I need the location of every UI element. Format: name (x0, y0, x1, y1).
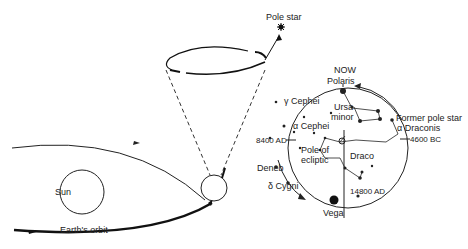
draco-lines (320, 120, 398, 178)
earths-orbit-label: Earth's orbit (60, 225, 108, 235)
precession-ellipse-top (166, 47, 248, 70)
former-pole-star-label: Former pole star (396, 113, 462, 123)
gamma-cephei-label: γ Cephei (284, 96, 320, 106)
orbit-lower-arc (14, 203, 212, 232)
deneb-label: Deneb (257, 163, 284, 173)
alpha-cephei-label: α Cephei (293, 121, 329, 131)
precession-ellipse-arrow (170, 70, 180, 72)
pole-star-label: Pole star (266, 12, 302, 22)
pole-of-ecliptic-label-1: Pole of (301, 145, 329, 155)
cone-line-right (221, 70, 265, 175)
cone-line-left (166, 70, 210, 175)
alpha-draconis-label: α Draconis (397, 123, 440, 133)
14800ad-label: 14800 AD (350, 187, 385, 197)
pole-star-icon (277, 23, 285, 31)
now-label: NOW (334, 65, 356, 75)
arrow-head-icon (298, 193, 306, 200)
arrow-head-icon (276, 34, 282, 41)
vega-label: Vega (323, 208, 344, 218)
precession-ellipse-bottom (186, 62, 265, 74)
vega-star (330, 196, 339, 205)
orbit-arrow-icon (133, 141, 140, 145)
delta-cygni-label: δ Cygni (268, 181, 299, 191)
polaris-label: Polaris (327, 76, 355, 86)
earth-circle (201, 175, 227, 201)
precession-ellipse-arrow (255, 52, 266, 58)
draco-label: Draco (350, 151, 374, 161)
sun-label: Sun (55, 187, 71, 197)
4600bc-label: 4600 BC (410, 135, 441, 145)
ursa-minor-label-1: Ursa (334, 102, 353, 112)
orbit-upper-arc (12, 145, 205, 200)
pole-of-ecliptic-label-2: ecliptic (301, 155, 329, 165)
ursa-minor-label-2: minor (331, 112, 354, 122)
draco-stars (319, 118, 394, 180)
8400ad-label: 8400 AD (256, 136, 287, 146)
